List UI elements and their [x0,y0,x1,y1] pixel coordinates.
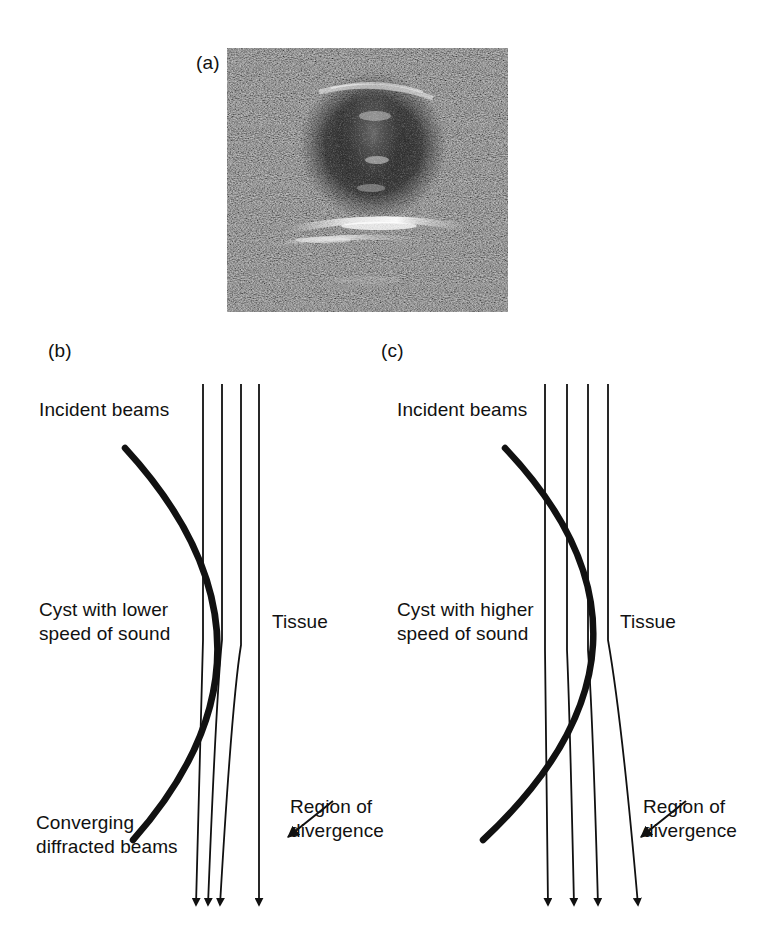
panel-b-cyst-label: Cyst with lower speed of sound [39,598,170,646]
beam-line-2 [567,384,574,905]
panel-c-cyst-label: Cyst with higher speed of sound [397,598,534,646]
panel-b-label: (b) [48,340,72,362]
ultrasound-image-svg [227,48,508,312]
figure-root: (a) [0,0,774,945]
beam-line-2 [208,384,222,905]
beam-line-3 [588,384,598,905]
beam-line-1 [196,384,203,905]
panel-c-label: (c) [381,340,404,362]
panel-b-tissue-label: Tissue [272,610,328,634]
panel-b-converging-beams-label: Converging diffracted beams [36,811,178,859]
panel-a-label: (a) [196,52,220,74]
beam-line-1 [545,384,548,905]
panel-c-beams [545,384,638,905]
panel-c-incident-beams-label: Incident beams [397,398,527,422]
panel-b-region-of-divergence-label: Region of divergence [290,795,384,843]
panel-b-incident-beams-label: Incident beams [39,398,169,422]
panel-c-tissue-label: Tissue [620,610,676,634]
panel-b-beams [196,384,259,905]
panel-c-region-of-divergence-label: Region of divergence [643,795,737,843]
beam-line-4 [608,384,638,905]
ultrasound-cyst-image [227,48,508,312]
beam-line-3 [220,384,241,905]
